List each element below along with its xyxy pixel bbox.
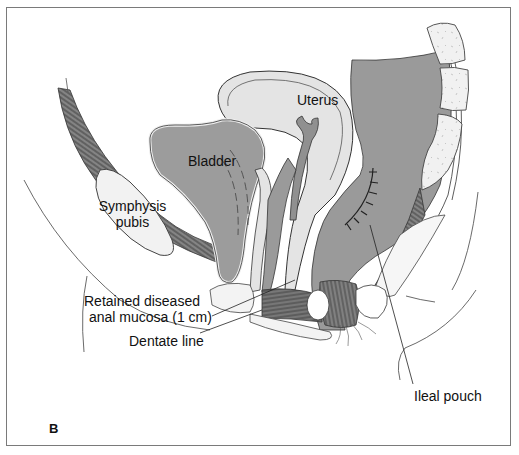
pelvis-sagittal-illustration [0, 0, 519, 455]
label-retained-line2: anal mucosa (1 cm) [84, 309, 212, 325]
label-symphysis-line2: pubis [95, 214, 170, 230]
label-bladder: Bladder [188, 153, 236, 169]
pouch-anal-anastomosis [356, 285, 387, 318]
label-symphysis-pubis: Symphysis pubis [95, 198, 170, 230]
perineal-fat-pad [210, 283, 254, 312]
label-retained-mucosa: Retained diseased anal mucosa (1 cm) [84, 293, 212, 325]
label-ileal-pouch: Ileal pouch [414, 388, 482, 404]
label-dentate-line: Dentate line [129, 333, 204, 349]
panel-label: B [49, 421, 58, 437]
label-uterus: Uterus [297, 92, 338, 108]
external-sphincter-ring [307, 290, 329, 320]
label-retained-line1: Retained diseased [84, 293, 212, 309]
label-symphysis-line1: Symphysis [95, 198, 170, 214]
